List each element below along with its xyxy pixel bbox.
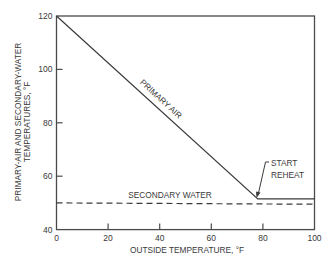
x-tick-label: 80: [258, 233, 268, 243]
start-reheat-label-line-1: START: [271, 158, 297, 168]
chart-container: 406080100120 020406080100 PRIMARY AIR SE…: [0, 0, 335, 266]
y-tick-label: 80: [43, 118, 53, 128]
x-tick-label: 20: [103, 233, 113, 243]
y-axis-ticks: 406080100120: [38, 11, 62, 235]
y-tick-label: 100: [38, 64, 52, 74]
x-tick-label: 100: [307, 233, 321, 243]
secondary-water-line: [57, 203, 315, 204]
start-reheat-leader-line: [259, 162, 270, 193]
x-tick-label: 40: [155, 233, 165, 243]
start-reheat-label-line-2: REHEAT: [271, 170, 304, 180]
x-tick-label: 0: [54, 233, 59, 243]
start-reheat-arrowhead: [256, 192, 261, 199]
y-tick-label: 120: [38, 11, 52, 21]
primary-air-label: PRIMARY AIR: [138, 77, 184, 120]
x-axis-label: OUTSIDE TEMPERATURE, °F: [130, 245, 244, 255]
y-tick-label: 40: [43, 225, 53, 235]
x-axis-ticks: 020406080100: [54, 224, 322, 243]
chart-svg: 406080100120 020406080100 PRIMARY AIR SE…: [0, 0, 335, 266]
secondary-water-label: SECONDARY WATER: [128, 190, 212, 200]
start-reheat-annotation: START REHEAT: [256, 158, 304, 198]
y-axis-label-line-2: TEMPERATURES, °F: [22, 82, 32, 163]
y-tick-label: 60: [43, 171, 53, 181]
x-tick-label: 60: [207, 233, 217, 243]
